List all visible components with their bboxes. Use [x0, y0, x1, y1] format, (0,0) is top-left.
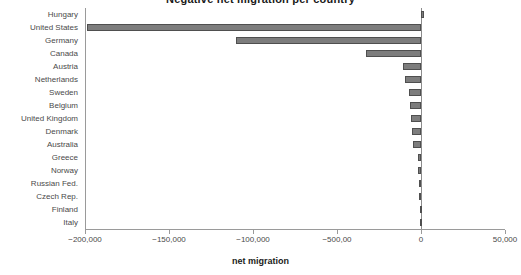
bar — [418, 154, 421, 161]
category-label: Netherlands — [35, 75, 78, 84]
category-label: Australia — [47, 140, 78, 149]
chart-title: Negative net migration per country — [0, 0, 521, 5]
bar — [420, 219, 422, 226]
category-label: Austria — [53, 62, 78, 71]
bar — [403, 63, 421, 70]
x-tick-label: −200,000 — [68, 235, 102, 245]
bar — [412, 128, 421, 135]
x-tick-mark — [169, 230, 170, 234]
net-migration-bar-chart: Negative net migration per country Hunga… — [0, 0, 521, 275]
bar — [418, 167, 421, 174]
bar — [419, 180, 421, 187]
category-label: Italy — [63, 218, 78, 227]
x-tick-mark — [253, 230, 254, 234]
x-tick-mark — [85, 230, 86, 234]
x-tick-mark — [505, 230, 506, 234]
bar — [410, 102, 421, 109]
category-label: Germany — [45, 36, 78, 45]
category-label: Greece — [52, 153, 78, 162]
category-label: United States — [30, 23, 78, 32]
x-axis: −200,000−150,000−100,000−500,00050,000 — [85, 230, 505, 252]
bar — [366, 50, 421, 57]
bar — [236, 37, 421, 44]
bar — [421, 11, 424, 18]
bars-layer — [85, 8, 505, 229]
category-label: Belgium — [49, 101, 78, 110]
bar — [409, 89, 421, 96]
category-label: United Kingdom — [21, 114, 78, 123]
category-axis: HungaryUnited StatesGermanyCanadaAustria… — [0, 8, 82, 229]
bar — [405, 76, 421, 83]
category-label: Russian Fed. — [31, 179, 78, 188]
category-label: Finland — [52, 205, 78, 214]
x-tick-label: 50,000 — [493, 235, 517, 245]
x-tick-label: −100,000 — [236, 235, 270, 245]
category-label: Norway — [51, 166, 78, 175]
bar — [87, 24, 421, 31]
bar — [411, 115, 421, 122]
category-label: Hungary — [48, 10, 78, 19]
bar — [419, 193, 421, 200]
category-label: Canada — [50, 49, 78, 58]
bar — [413, 141, 421, 148]
category-label: Sweden — [49, 88, 78, 97]
x-tick-label: 0 — [419, 235, 423, 245]
x-tick-label: −500,00 — [322, 235, 351, 245]
x-tick-mark — [421, 230, 422, 234]
x-axis-title: net migration — [0, 256, 521, 266]
x-tick-mark — [337, 230, 338, 234]
category-label: Denmark — [46, 127, 78, 136]
bar — [420, 206, 422, 213]
x-tick-label: −150,000 — [152, 235, 186, 245]
category-label: Czech Rep. — [36, 192, 78, 201]
